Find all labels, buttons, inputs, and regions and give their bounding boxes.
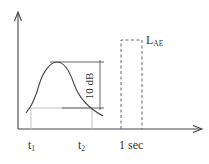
t1-label-sub: 1: [31, 144, 35, 153]
t2-label: t2: [78, 138, 85, 153]
lae-label-sub: AE: [153, 39, 163, 48]
lae-label-main: L: [146, 33, 153, 47]
t2-label-sub: 2: [81, 144, 85, 153]
ten-db-label: 10 dB: [83, 73, 95, 100]
y-axis: [15, 12, 22, 129]
one-sec-label: 1 sec: [119, 138, 143, 152]
lae-box: [121, 40, 142, 129]
lae-diagram: 10 dB LAE t1 t2 1 sec: [0, 0, 209, 164]
t1-label: t1: [28, 138, 35, 153]
x-axis: [18, 126, 202, 133]
lae-label: LAE: [146, 33, 164, 48]
